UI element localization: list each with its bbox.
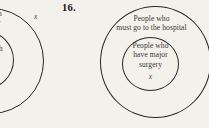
figure-page: h r h l x 16. People who must go to the … bbox=[0, 0, 209, 128]
outer-circle-label: People who must go to the hospital bbox=[94, 14, 209, 33]
inner-circle-label-line-2: have major bbox=[118, 50, 183, 59]
left-variable-label: x bbox=[34, 12, 37, 21]
main-venn-figure: People who must go to the hospital Peopl… bbox=[94, 0, 209, 128]
inner-circle-label-line-3: surgery bbox=[118, 60, 183, 69]
inner-circle-label-line-1: People who bbox=[118, 41, 183, 50]
outer-circle-label-line-2: must go to the hospital bbox=[94, 23, 209, 32]
left-outer-label-fragment-1: h bbox=[0, 9, 2, 18]
left-inner-label-fragment-1: h bbox=[0, 44, 3, 53]
left-clipped-venn-figure: h r h l x bbox=[0, 0, 58, 128]
outer-circle-label-line-1: People who bbox=[94, 14, 209, 23]
inner-circle-label: People who have major surgery bbox=[118, 41, 183, 69]
problem-number: 16. bbox=[62, 2, 76, 13]
inner-circle-variable-label: x bbox=[118, 72, 183, 81]
